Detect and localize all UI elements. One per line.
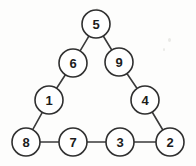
node-label-5: 5	[92, 17, 99, 32]
edge-4-2	[152, 112, 163, 130]
edge-6-1	[57, 75, 66, 89]
triangle-graph-canvas: 569148732	[0, 0, 196, 166]
node-label-1: 1	[45, 93, 52, 108]
node-3[interactable]: 3	[106, 128, 134, 156]
edge-5-6	[80, 36, 89, 51]
node-label-4: 4	[141, 93, 149, 108]
node-label-2: 2	[166, 135, 173, 150]
node-7[interactable]: 7	[59, 128, 87, 156]
node-9[interactable]: 9	[105, 48, 133, 76]
edge-5-9	[103, 36, 112, 50]
node-6[interactable]: 6	[59, 49, 87, 77]
node-4[interactable]: 4	[131, 86, 159, 114]
edge-1-8	[33, 112, 43, 129]
node-label-8: 8	[22, 135, 29, 150]
node-1[interactable]: 1	[35, 86, 63, 114]
node-label-7: 7	[69, 135, 76, 150]
nodes-group: 569148732	[12, 10, 184, 156]
node-label-6: 6	[69, 56, 76, 71]
node-2[interactable]: 2	[156, 128, 184, 156]
magic-triangle-diagram: 569148732	[0, 0, 196, 166]
node-label-3: 3	[116, 135, 123, 150]
node-5[interactable]: 5	[82, 10, 110, 38]
edge-9-4	[127, 74, 137, 89]
node-8[interactable]: 8	[12, 128, 40, 156]
node-label-9: 9	[115, 55, 122, 70]
